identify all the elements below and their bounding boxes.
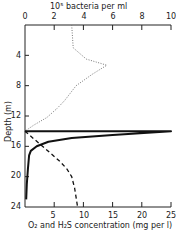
series-bacteria-line xyxy=(25,25,107,131)
series-oxygen-line xyxy=(25,131,171,199)
series-hydrogen-sulfide-line xyxy=(25,131,78,207)
plot-area xyxy=(0,0,176,231)
